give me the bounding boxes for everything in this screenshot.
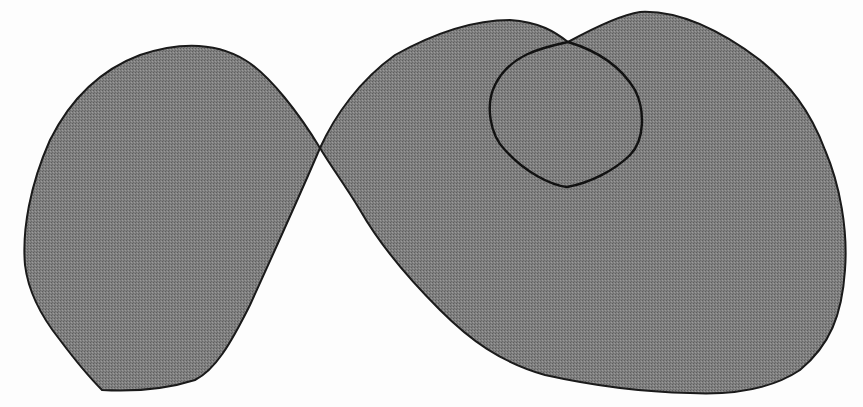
diagram-figure <box>0 0 863 407</box>
left-region-shape <box>24 46 320 391</box>
right-region-shape <box>320 12 846 394</box>
diagram-canvas <box>0 0 863 407</box>
